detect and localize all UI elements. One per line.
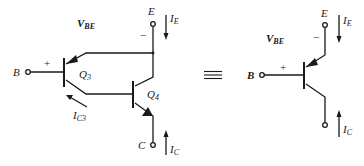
terminal-b-label-left: B: [13, 67, 20, 78]
ie-arrow-left-head: [164, 33, 169, 40]
q3-emitter-wire: [66, 53, 153, 64]
ic-arrow-right-head: [337, 110, 342, 117]
ic-label-left: IC: [170, 144, 179, 157]
terminal-c-right: [323, 123, 328, 128]
q4-emitter-arrowhead: [142, 107, 153, 116]
collector-wire-right: [306, 84, 325, 123]
circuit-wires: [0, 0, 364, 166]
terminal-b-right: [260, 73, 265, 78]
q4-collector-wire: [135, 53, 153, 86]
minus-sign-right: −: [313, 32, 319, 43]
ie-arrow-right-head: [337, 36, 342, 43]
circuit-diagram: VBE E IE − + B Q3 Q4 IC3 C IC VBE E IE −…: [0, 0, 364, 166]
q3-label: Q3: [79, 69, 91, 82]
terminal-b-left: [26, 70, 31, 75]
q4-emitter-wire: [135, 103, 153, 143]
q3-collector-wire: [66, 80, 133, 94]
plus-sign-right: +: [280, 62, 286, 73]
q3-emitter-arrowhead: [66, 55, 78, 64]
plus-sign-left: +: [44, 58, 50, 69]
ie-label-right: IE: [343, 15, 352, 28]
ic3-arrow-head: [66, 95, 73, 100]
terminal-b-label-right: B: [247, 70, 254, 81]
vbe-label-right: VBE: [266, 33, 284, 46]
ic-arrow-left-head: [164, 130, 169, 137]
junction-dot: [152, 52, 155, 55]
terminal-e-right: [323, 23, 328, 28]
vbe-label-left: VBE: [77, 18, 95, 31]
ic-label-right: IC: [343, 124, 352, 137]
terminal-e-label-right: E: [321, 8, 328, 19]
ie-label-left: IE: [170, 13, 179, 26]
terminal-e-left: [151, 22, 156, 27]
terminal-e-label-left: E: [148, 6, 155, 17]
minus-sign-left: −: [140, 30, 146, 41]
ic3-label: IC3: [73, 110, 86, 123]
terminal-c-label-left: C: [138, 140, 145, 151]
right-emitter-arrowhead: [306, 58, 318, 67]
terminal-c-left: [151, 143, 156, 148]
q4-label: Q4: [147, 89, 159, 102]
